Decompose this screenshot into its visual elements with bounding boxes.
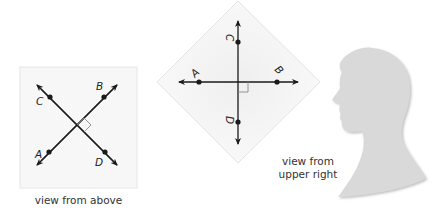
head-silhouette-icon (0, 0, 446, 215)
silhouette-panel (0, 0, 446, 215)
